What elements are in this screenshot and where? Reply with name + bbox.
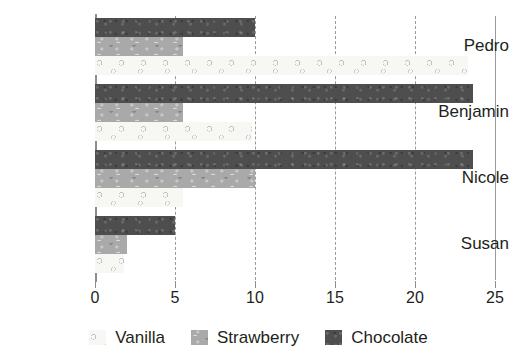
legend-label-vanilla: Vanilla bbox=[115, 328, 165, 347]
bar-nicole-strawberry bbox=[95, 169, 255, 188]
bar-pedro-vanilla bbox=[95, 56, 468, 75]
legend-label-chocolate: Chocolate bbox=[351, 328, 428, 347]
bar-nicole-vanilla bbox=[95, 188, 183, 207]
legend-item-strawberry[interactable]: Strawberry bbox=[191, 328, 299, 347]
bar-nicole-chocolate bbox=[95, 150, 473, 169]
x-tick-label-25: 25 bbox=[486, 288, 504, 308]
bar-susan-vanilla bbox=[95, 254, 124, 273]
x-tick-label-20: 20 bbox=[406, 288, 424, 308]
bar-susan-chocolate bbox=[95, 216, 175, 235]
x-tick-label-15: 15 bbox=[326, 288, 344, 308]
bar-pedro-chocolate bbox=[95, 18, 255, 37]
chocolate-swatch bbox=[325, 330, 342, 345]
x-tick-5 bbox=[175, 281, 176, 288]
legend-item-chocolate[interactable]: Chocolate bbox=[325, 328, 428, 347]
bar-benjamin-strawberry bbox=[95, 103, 183, 122]
x-tick-10 bbox=[255, 281, 256, 288]
bar-benjamin-vanilla bbox=[95, 122, 252, 141]
x-tick-20 bbox=[415, 281, 416, 288]
y-axis-label-nicole: Nicole bbox=[423, 168, 509, 187]
vanilla-swatch bbox=[89, 330, 106, 345]
y-axis-label-benjamin: Benjamin bbox=[423, 102, 509, 121]
bar-chart: 0510152025 PedroBenjaminNicoleSusan Vani… bbox=[0, 0, 517, 357]
x-tick-25 bbox=[495, 281, 496, 288]
y-axis-label-pedro: Pedro bbox=[423, 36, 509, 55]
y-axis-label-susan: Susan bbox=[423, 234, 509, 253]
x-tick-15 bbox=[335, 281, 336, 288]
x-tick-label-5: 5 bbox=[171, 288, 180, 308]
legend-label-strawberry: Strawberry bbox=[217, 328, 299, 347]
legend-item-vanilla[interactable]: Vanilla bbox=[89, 328, 165, 347]
bar-pedro-strawberry bbox=[95, 37, 183, 56]
x-tick-label-10: 10 bbox=[246, 288, 264, 308]
chart-legend: VanillaStrawberryChocolate bbox=[0, 322, 517, 352]
bar-benjamin-chocolate bbox=[95, 84, 473, 103]
strawberry-swatch bbox=[191, 330, 208, 345]
x-tick-0 bbox=[95, 281, 96, 288]
x-tick-label-0: 0 bbox=[91, 288, 100, 308]
bar-susan-strawberry bbox=[95, 235, 127, 254]
